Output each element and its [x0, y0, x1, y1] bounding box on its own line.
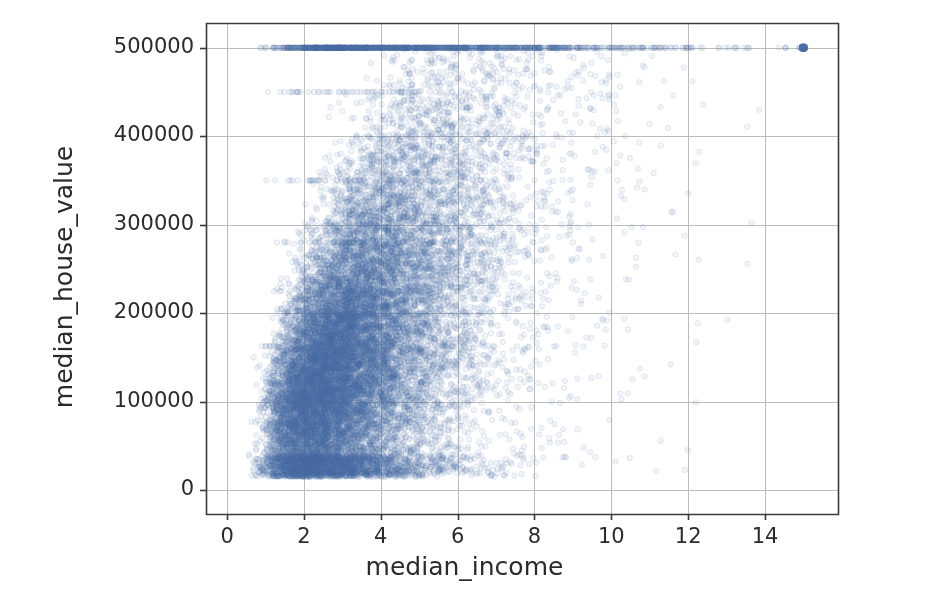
x-axis-label: median_income: [0, 552, 929, 581]
x-tick-label: 10: [571, 524, 651, 548]
y-tick-label: 0: [181, 476, 194, 500]
y-tick-label: 300000: [114, 211, 194, 235]
y-tick-label: 200000: [114, 299, 194, 323]
x-tick-label: 12: [648, 524, 728, 548]
scatter-plot-canvas: [0, 0, 929, 596]
y-tick-label: 100000: [114, 388, 194, 412]
y-tick-label: 500000: [114, 34, 194, 58]
y-axis-label-container: median_house_value: [49, 27, 79, 527]
y-tick-label: 400000: [114, 122, 194, 146]
x-tick-label: 14: [725, 524, 805, 548]
scatter-plot-figure: median_house_value median_income 0100000…: [0, 0, 929, 596]
x-tick-label: 4: [341, 524, 421, 548]
x-tick-label: 6: [418, 524, 498, 548]
x-tick-label: 2: [264, 524, 344, 548]
x-tick-label: 8: [494, 524, 574, 548]
x-tick-label: 0: [187, 524, 267, 548]
y-axis-label: median_house_value: [49, 27, 78, 527]
figure-page: median_house_value median_income 0100000…: [0, 0, 929, 596]
